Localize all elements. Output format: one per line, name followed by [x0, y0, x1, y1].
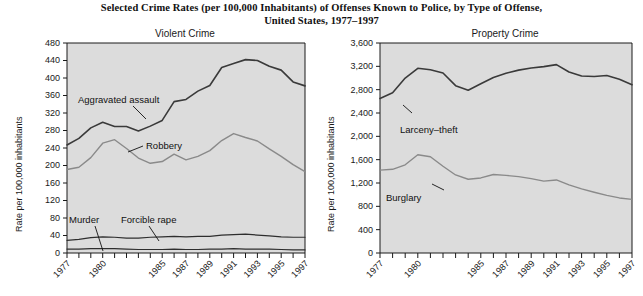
y-tick-label-left-11: 440: [45, 55, 60, 65]
violent-crime-chart: 0408012016020024028032036040044048019771…: [0, 0, 643, 296]
x-tick-label-right-8: 1997: [616, 258, 637, 279]
y-tick-label-left-3: 120: [45, 195, 60, 205]
annotation-label-murder: Murder: [69, 214, 99, 225]
y-tick-label-right-1: 400: [358, 225, 373, 235]
x-tick-label-left-8: 1997: [289, 258, 310, 279]
y-tick-label-right-6: 2,400: [350, 108, 373, 118]
y-tick-label-left-8: 320: [45, 108, 60, 118]
x-tick-label-left-6: 1993: [242, 258, 263, 279]
x-tick-label-right-0: 1977: [364, 258, 385, 279]
x-tick-label-left-2: 1985: [146, 258, 167, 279]
y-tick-label-right-0: 0: [368, 248, 373, 258]
annotation-label-larceny-theft: Larceny–theft: [400, 124, 458, 135]
x-tick-label-left-7: 1995: [265, 258, 286, 279]
panel-title-violent-crime: Violent Crime: [60, 28, 310, 39]
annotation-leader-3-left: [95, 226, 103, 251]
x-tick-label-left-0: 1977: [51, 258, 72, 279]
x-tick-label-left-1: 1980: [87, 258, 108, 279]
crime-rates-figure: Selected Crime Rates (per 100,000 Inhabi…: [0, 0, 643, 296]
plot-area-right: [380, 43, 632, 253]
annotation-label-forcible-rape: Forcible rape: [121, 214, 176, 225]
y-tick-label-left-1: 40: [50, 230, 60, 240]
y-tick-label-right-3: 1,200: [350, 178, 373, 188]
y-tick-label-right-7: 2,800: [350, 85, 373, 95]
x-tick-label-left-5: 1991: [218, 258, 239, 279]
figure-title: Selected Crime Rates (per 100,000 Inhabi…: [0, 2, 643, 27]
series-line-aggravated-assault: [67, 60, 305, 145]
panel-title-property-crime: Property Crime: [380, 28, 630, 39]
y-tick-label-left-2: 80: [50, 213, 60, 223]
annotation-leader-0-left: [133, 106, 146, 119]
x-tick-label-right-1: 1980: [402, 258, 423, 279]
y-tick-label-left-12: 480: [45, 38, 60, 48]
x-tick-label-right-7: 1995: [591, 258, 612, 279]
y-tick-label-left-4: 160: [45, 178, 60, 188]
y-tick-label-left-5: 200: [45, 160, 60, 170]
figure-title-line-1: Selected Crime Rates (per 100,000 Inhabi…: [0, 2, 643, 15]
y-tick-label-right-9: 3,600: [350, 38, 373, 48]
y-tick-label-left-6: 240: [45, 143, 60, 153]
x-tick-label-right-4: 1989: [515, 258, 536, 279]
figure-title-line-2: United States, 1977–1997: [0, 15, 643, 28]
series-line-robbery: [67, 134, 305, 172]
series-line-forcible-rape: [67, 234, 305, 240]
axis-frame-left: [67, 43, 305, 253]
axis-frame-right: [380, 43, 632, 253]
x-tick-label-right-5: 1991: [541, 258, 562, 279]
y-axis-label-left: Rate per 100,000 inhabitants: [14, 116, 24, 232]
x-tick-label-right-3: 1987: [490, 258, 511, 279]
annotation-leader-2-left: [149, 226, 159, 241]
annotation-label-burglary: Burglary: [386, 192, 422, 203]
y-tick-label-right-4: 1,600: [350, 155, 373, 165]
annotation-leader-0-right: [403, 105, 412, 113]
annotation-leader-1-left: [128, 146, 143, 152]
y-tick-label-left-10: 400: [45, 73, 60, 83]
plot-area-left: [67, 43, 305, 253]
y-tick-label-left-0: 0: [55, 248, 60, 258]
panel-right: 04008001,2001,6002,0002,4002,8003,2003,6…: [350, 38, 637, 280]
x-tick-label-left-4: 1989: [194, 258, 215, 279]
y-tick-label-right-2: 800: [358, 201, 373, 211]
x-tick-label-right-6: 1993: [566, 258, 587, 279]
series-line-burglary: [380, 155, 632, 200]
x-tick-label-left-3: 1987: [170, 258, 191, 279]
y-tick-label-right-5: 2,000: [350, 131, 373, 141]
y-tick-label-left-9: 360: [45, 90, 60, 100]
y-tick-label-left-7: 280: [45, 125, 60, 135]
x-tick-label-right-2: 1985: [465, 258, 486, 279]
annotation-label-robbery: Robbery: [146, 140, 182, 151]
y-axis-label-right: Rate per 100,000 inhabitants: [326, 116, 336, 232]
annotation-leader-1-right: [432, 184, 444, 190]
y-tick-label-right-8: 3,200: [350, 61, 373, 71]
annotation-label-aggravated-assault: Aggravated assault: [78, 94, 160, 105]
panel-left: 0408012016020024028032036040044048019771…: [45, 38, 310, 280]
series-line-larceny-theft: [380, 65, 632, 99]
series-line-murder: [67, 249, 305, 250]
